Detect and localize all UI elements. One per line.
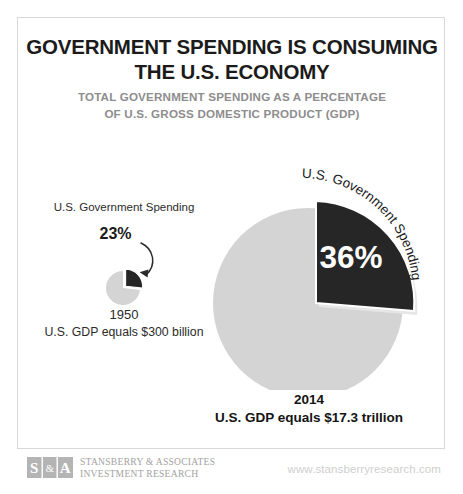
large-pie-percent-label: 36% [319, 239, 382, 275]
subtitle-line-2: OF U.S. GROSS DOMESTIC PRODUCT (GDP) [18, 105, 446, 122]
brand-name-line-2: INVESTMENT RESEARCH [80, 468, 215, 480]
brand-name: STANSBERRY & ASSOCIATES INVESTMENT RESEA… [80, 456, 215, 479]
large-pie-graphic: 36% U.S. Government Spending [183, 140, 446, 390]
subtitle-line-1: TOTAL GOVERNMENT SPENDING AS A PERCENTAG… [18, 88, 446, 105]
callout-arrowhead-icon [140, 270, 149, 278]
footer: S & A STANSBERRY & ASSOCIATES INVESTMENT… [0, 452, 463, 494]
pie-chart-2014: 36% U.S. Government Spending 2014 U.S. G… [183, 140, 446, 430]
stansberry-logo-icon: S & A [27, 457, 73, 478]
title-line-1: GOVERNMENT SPENDING IS CONSUMING [18, 34, 446, 59]
infographic-root: GOVERNMENT SPENDING IS CONSUMING THE U.S… [0, 0, 463, 494]
svg-text:&: & [45, 462, 54, 474]
svg-text:S: S [30, 460, 38, 476]
large-pie-year-label: 2014 [183, 392, 435, 407]
page-title: GOVERNMENT SPENDING IS CONSUMING THE U.S… [18, 34, 446, 84]
title-line-2: THE U.S. ECONOMY [18, 59, 446, 84]
chart-frame: GOVERNMENT SPENDING IS CONSUMING THE U.S… [17, 17, 445, 449]
large-pie-gdp-label: U.S. GDP equals $17.3 trillion [183, 410, 435, 425]
brand-name-line-1: STANSBERRY & ASSOCIATES [80, 456, 215, 468]
svg-text:A: A [60, 460, 71, 476]
brand-logo: S & A STANSBERRY & ASSOCIATES INVESTMENT… [27, 456, 215, 479]
website-url[interactable]: www.stansberryresearch.com [288, 463, 441, 475]
small-pie-slice-government [126, 269, 143, 288]
page-subtitle: TOTAL GOVERNMENT SPENDING AS A PERCENTAG… [18, 88, 446, 122]
